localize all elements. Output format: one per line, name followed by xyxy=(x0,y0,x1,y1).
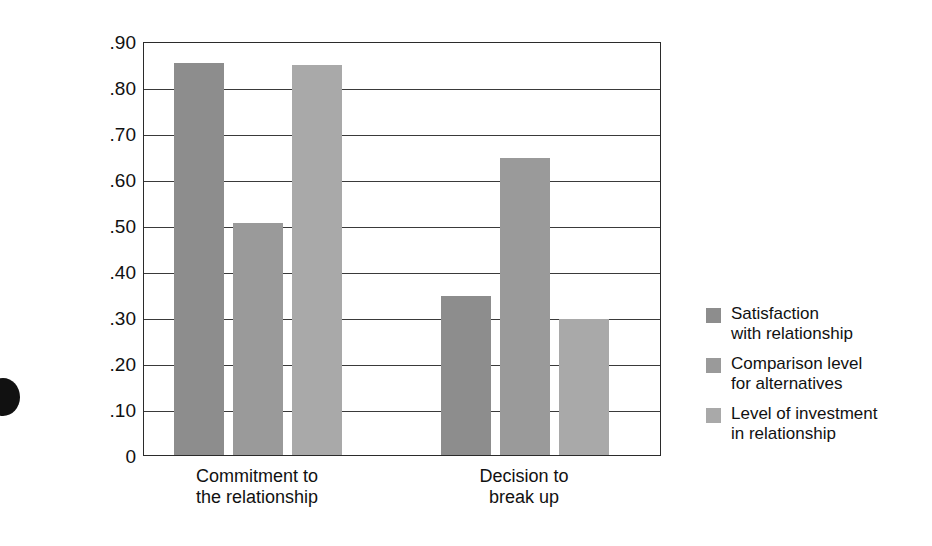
legend-label: Comparison level for alternatives xyxy=(731,354,862,395)
x-axis-category-label: Decision to break up xyxy=(414,466,634,508)
bar xyxy=(441,296,491,455)
legend-item: Comparison level for alternatives xyxy=(706,354,928,395)
y-tick-label: 0 xyxy=(76,447,136,466)
bar xyxy=(500,158,550,455)
x-axis-category-label: Commitment to the relationship xyxy=(147,466,367,508)
y-tick-label: .80 xyxy=(76,79,136,98)
legend-swatch-icon xyxy=(706,308,721,323)
y-tick-label: .30 xyxy=(76,309,136,328)
y-tick-label: .60 xyxy=(76,171,136,190)
legend-item: Level of investment in relationship xyxy=(706,404,928,445)
legend-label: Satisfaction with relationship xyxy=(731,304,853,345)
bar xyxy=(174,63,224,455)
bar xyxy=(559,319,609,455)
bar-chart-figure: Degree of contribution .90.80.70.60.50.4… xyxy=(0,0,932,546)
y-tick-label: .10 xyxy=(76,401,136,420)
y-tick-label: .20 xyxy=(76,355,136,374)
plot-area xyxy=(143,42,661,456)
legend-item: Satisfaction with relationship xyxy=(706,304,928,345)
y-tick-label: .90 xyxy=(76,33,136,52)
y-tick-label: .50 xyxy=(76,217,136,236)
y-axis-tick-labels: .90.80.70.60.50.40.30.20.100 xyxy=(72,42,136,456)
page-edge-marker xyxy=(0,378,20,416)
bar xyxy=(233,223,283,455)
legend-swatch-icon xyxy=(706,408,721,423)
y-tick-label: .70 xyxy=(76,125,136,144)
legend-label: Level of investment in relationship xyxy=(731,404,877,445)
bar xyxy=(292,65,342,455)
y-tick-label: .40 xyxy=(76,263,136,282)
chart-legend: Satisfaction with relationshipComparison… xyxy=(706,304,928,453)
legend-swatch-icon xyxy=(706,358,721,373)
